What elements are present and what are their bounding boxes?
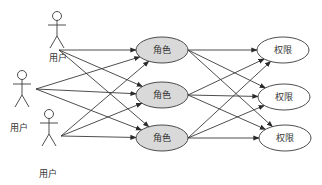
edge-user3-role1 (61, 61, 149, 136)
role-label-3: 角色 (153, 134, 171, 143)
user-label-3: 用户 (39, 170, 57, 179)
permission-label-2: 权限 (275, 93, 293, 102)
user-actor-icon-3 (40, 110, 58, 147)
user-actor-icon-2 (13, 71, 31, 108)
permission-label-3: 权限 (276, 134, 294, 143)
user-label-2: 用户 (10, 124, 28, 133)
edge-role2-perm1 (188, 59, 264, 95)
user-role-edges (36, 50, 149, 137)
role-label-2: 角色 (153, 91, 171, 100)
edge-user1-role2 (59, 50, 142, 86)
edge-user2-role2 (36, 89, 136, 94)
user-label-1: 用户 (49, 54, 67, 63)
role-label-1: 角色 (153, 46, 171, 55)
edge-role2-perm2 (188, 95, 258, 96)
user-actor-icon-1 (48, 12, 66, 49)
edge-role1-perm2 (188, 50, 265, 88)
permission-label-1: 权限 (274, 46, 292, 55)
edge-role2-perm3 (188, 95, 266, 129)
edge-role3-perm2 (188, 105, 264, 138)
edge-user3-role2 (61, 103, 142, 136)
edge-user3-role3 (61, 136, 136, 137)
